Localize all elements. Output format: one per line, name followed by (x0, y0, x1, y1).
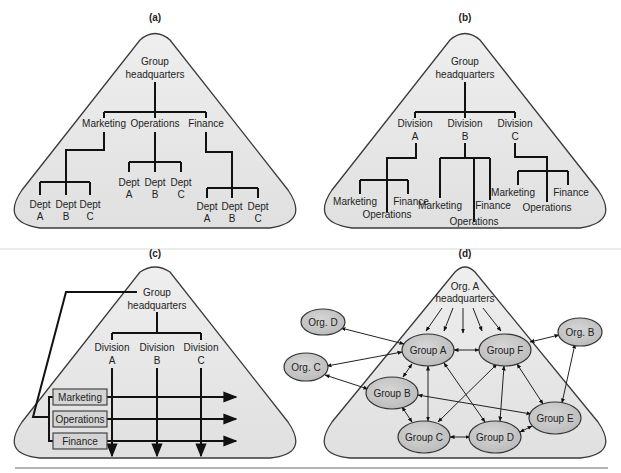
panel-d-node-group-f: Group F (479, 334, 531, 366)
svg-text:Dept: Dept (29, 199, 50, 210)
svg-text:Group D: Group D (476, 432, 514, 443)
panel-b-division-b-line2: B (462, 131, 469, 142)
panel-d: (d) Org. A headquarters (284, 248, 606, 458)
svg-text:Marketing: Marketing (58, 392, 102, 403)
panel-a-function-marketing: Marketing (82, 118, 126, 129)
panel-b-division-c-line1: Division (497, 118, 532, 129)
panel-a-marketing-depts: Dept A Dept B Dept C (29, 199, 100, 222)
svg-text:Group B: Group B (373, 388, 411, 399)
svg-text:Operations: Operations (56, 414, 105, 425)
svg-text:Finance: Finance (553, 187, 589, 198)
svg-text:Org. C: Org. C (291, 362, 320, 373)
panel-a-operations-depts: Dept A Dept B Dept C (118, 177, 191, 200)
panel-b-division-b-line1: Division (447, 118, 482, 129)
svg-text:Dept: Dept (221, 201, 242, 212)
svg-text:Operations: Operations (363, 209, 412, 220)
panel-a-root-line1: Group (141, 56, 169, 67)
panel-c-function-box-finance: Finance (53, 433, 107, 449)
panel-d-root-line1: Org. A (451, 281, 480, 292)
svg-text:B: B (229, 213, 236, 224)
svg-text:B: B (152, 189, 159, 200)
panel-c-root-line2: headquarters (128, 300, 187, 311)
svg-text:A: A (204, 213, 211, 224)
svg-text:Dept: Dept (170, 177, 191, 188)
panel-b-root-line1: Group (451, 56, 479, 67)
panel-c: (c) Group headquarters Division A Divisi… (14, 248, 296, 458)
panel-b: (b) Group headquarters Division A Divisi… (324, 12, 605, 228)
panel-c-title: (c) (149, 248, 161, 259)
panel-d-node-org-b: Org. B (558, 318, 602, 346)
svg-text:Dept: Dept (55, 199, 76, 210)
svg-text:Group E: Group E (536, 413, 574, 424)
panel-a-root-line2: headquarters (126, 69, 185, 80)
panel-c-division-a-line1: Division (94, 342, 129, 353)
panel-d-root-line2: headquarters (436, 293, 495, 304)
panel-b-title: (b) (459, 12, 472, 23)
svg-text:C: C (86, 211, 93, 222)
svg-text:Dept: Dept (196, 201, 217, 212)
svg-text:Finance: Finance (62, 436, 98, 447)
panel-b-root-line2: headquarters (436, 69, 495, 80)
panel-c-division-a-line2: A (109, 355, 116, 366)
svg-text:Operations: Operations (450, 216, 499, 227)
panel-b-division-a-line1: Division (397, 118, 432, 129)
panel-c-division-b-line2: B (154, 355, 161, 366)
svg-text:Marketing: Marketing (333, 196, 377, 207)
panel-d-node-org-c: Org. C (284, 353, 328, 381)
panel-c-root-line1: Group (143, 287, 171, 298)
panel-d-node-group-e: Group E (529, 402, 581, 434)
panel-a-title: (a) (149, 12, 161, 23)
panel-a: (a) Group headquarters Marketing Operati… (14, 12, 296, 228)
panel-c-division-c-line1: Division (183, 342, 218, 353)
svg-text:C: C (177, 189, 184, 200)
panel-d-node-org-d: Org. D (301, 309, 345, 335)
svg-text:Group F: Group F (487, 345, 524, 356)
svg-text:Finance: Finance (475, 200, 511, 211)
svg-text:Marketing: Marketing (418, 200, 462, 211)
panel-d-title: (d) (459, 248, 472, 259)
svg-text:B: B (63, 211, 70, 222)
panel-c-division-c-line2: C (197, 355, 204, 366)
svg-text:Org. B: Org. B (566, 327, 595, 338)
svg-text:Dept: Dept (144, 177, 165, 188)
svg-text:C: C (254, 213, 261, 224)
svg-text:Dept: Dept (247, 201, 268, 212)
panel-d-node-group-c: Group C (398, 421, 450, 453)
panel-d-node-group-a: Group A (402, 334, 454, 366)
panel-c-division-b-line1: Division (139, 342, 174, 353)
panel-b-division-c-line2: C (511, 131, 518, 142)
panel-c-function-box-marketing: Marketing (53, 389, 107, 405)
panel-a-function-operations: Operations (131, 118, 180, 129)
svg-text:Dept: Dept (79, 199, 100, 210)
org-structures-figure: (a) Group headquarters Marketing Operati… (0, 0, 621, 473)
panel-b-division-a-line2: A (412, 131, 419, 142)
svg-text:Group A: Group A (410, 345, 447, 356)
svg-text:A: A (37, 211, 44, 222)
svg-text:A: A (126, 189, 133, 200)
panel-c-function-box-operations: Operations (53, 411, 107, 427)
svg-text:Group C: Group C (405, 432, 443, 443)
svg-text:Operations: Operations (523, 202, 572, 213)
panel-d-node-group-b: Group B (366, 377, 418, 409)
svg-text:Marketing: Marketing (491, 187, 535, 198)
svg-text:Org. D: Org. D (308, 317, 337, 328)
panel-d-node-group-d: Group D (469, 421, 521, 453)
panel-a-function-finance: Finance (188, 118, 224, 129)
svg-text:Dept: Dept (118, 177, 139, 188)
panel-a-finance-depts: Dept A Dept B Dept C (196, 201, 268, 224)
